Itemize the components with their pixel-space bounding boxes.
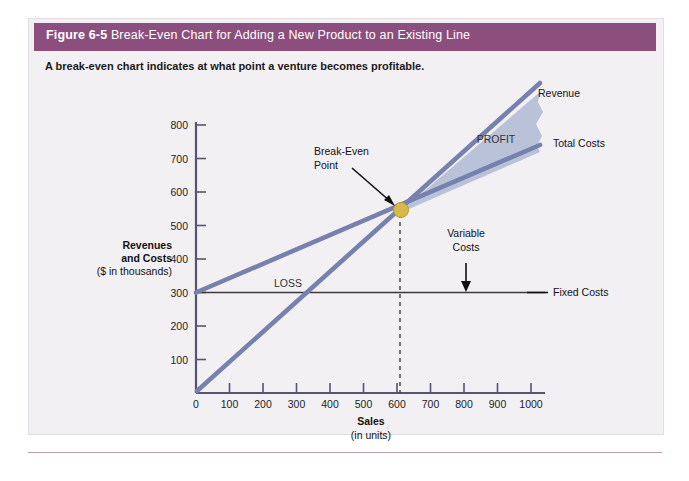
- x-tick-400: 400: [321, 398, 339, 410]
- y-tick-600: 600: [170, 186, 188, 198]
- y-tick-700: 700: [170, 153, 188, 165]
- break-even-chart: 100 200 300 400 500 600 700 800 0 100: [0, 0, 689, 481]
- y-axis-ticks: [196, 125, 206, 360]
- total-costs-line: [196, 145, 540, 293]
- y-axis-title-line1: Revenues: [122, 239, 172, 251]
- y-axis-labels: 100 200 300 400 500 600 700 800: [170, 119, 188, 366]
- y-tick-800: 800: [170, 119, 188, 131]
- variable-costs-label-line2: Costs: [453, 241, 480, 253]
- variable-costs-arrow-head: [461, 281, 471, 292]
- y-tick-500: 500: [170, 220, 188, 232]
- x-tick-200: 200: [254, 398, 272, 410]
- figure-page: Figure 6-5 Break-Even Chart for Adding a…: [0, 0, 689, 481]
- revenue-line: [197, 83, 540, 391]
- x-tick-100: 100: [221, 398, 239, 410]
- y-tick-300: 300: [170, 287, 188, 299]
- break-even-label-line1: Break-Even: [314, 145, 369, 157]
- x-tick-900: 900: [489, 398, 507, 410]
- y-tick-400: 400: [170, 253, 188, 265]
- x-tick-300: 300: [288, 398, 306, 410]
- revenue-label: Revenue: [538, 87, 580, 99]
- y-axis-title-line3: ($ in thousands): [97, 265, 172, 277]
- x-tick-500: 500: [355, 398, 373, 410]
- total-costs-label: Total Costs: [553, 137, 605, 149]
- break-even-point-marker[interactable]: [394, 203, 409, 218]
- profit-label: PROFIT: [477, 133, 516, 145]
- y-tick-100: 100: [170, 354, 188, 366]
- y-axis-title-line2: and Costs: [121, 252, 172, 264]
- x-axis-title: Sales: [357, 415, 385, 427]
- y-tick-200: 200: [170, 320, 188, 332]
- x-axis-ticks: [196, 383, 531, 393]
- x-tick-0: 0: [193, 398, 199, 410]
- x-tick-700: 700: [422, 398, 440, 410]
- x-axis-labels: 0 100 200 300 400 500 600 700 800 900 10…: [193, 398, 543, 410]
- x-tick-600: 600: [388, 398, 406, 410]
- x-axis-title-sub: (in units): [351, 429, 391, 441]
- break-even-arrow-shaft: [352, 168, 391, 202]
- loss-label: LOSS: [274, 277, 302, 289]
- fixed-costs-label: Fixed Costs: [553, 286, 608, 298]
- x-tick-1000: 1000: [519, 398, 543, 410]
- variable-costs-label-line1: Variable: [447, 227, 485, 239]
- break-even-label-line2: Point: [314, 159, 338, 171]
- x-tick-800: 800: [455, 398, 473, 410]
